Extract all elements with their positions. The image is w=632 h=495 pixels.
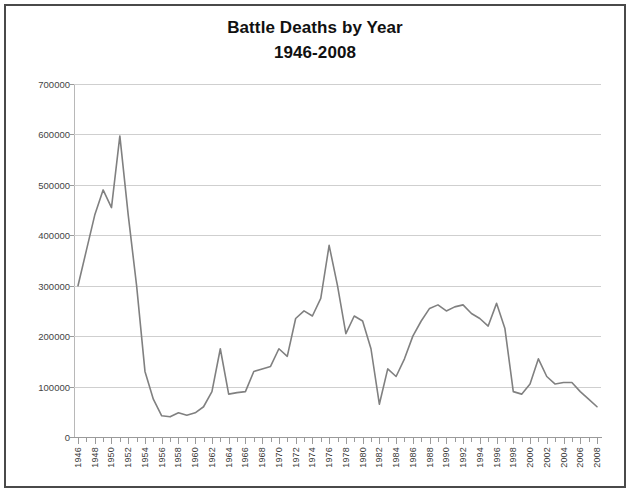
x-axis-tick-label: 1994 xyxy=(475,447,485,468)
x-axis-tick-mark xyxy=(580,438,581,444)
x-axis-tick-mark xyxy=(254,438,255,442)
x-axis-tick-mark xyxy=(547,438,548,444)
x-axis-tick-label: 1946 xyxy=(73,447,83,468)
x-axis-tick-mark xyxy=(212,438,213,444)
x-axis-tick-mark xyxy=(471,438,472,442)
chart-title-line1: Battle Deaths by Year xyxy=(227,18,403,37)
x-axis-tick-label: 1970 xyxy=(274,447,284,468)
y-axis-tick-mark xyxy=(70,336,74,337)
x-axis-tick-mark xyxy=(413,438,414,444)
x-axis-tick-mark xyxy=(438,438,439,442)
x-axis-tick-mark xyxy=(195,438,196,444)
x-axis-tick-mark xyxy=(95,438,96,444)
x-axis-tick-mark xyxy=(279,438,280,444)
x-axis-tick-mark xyxy=(271,438,272,442)
x-axis-tick-label: 1962 xyxy=(207,447,217,468)
x-axis-tick-label: 1960 xyxy=(190,447,200,468)
x-axis-tick-mark xyxy=(513,438,514,444)
x-axis-tick-mark xyxy=(379,438,380,444)
x-axis-tick-mark xyxy=(103,438,104,442)
x-axis-tick-mark xyxy=(589,438,590,442)
x-axis-tick-mark xyxy=(145,438,146,444)
y-axis-tick-label: 500000 xyxy=(10,179,70,190)
x-axis-tick-mark xyxy=(237,438,238,442)
x-axis-tick-mark xyxy=(304,438,305,442)
y-axis-tick-label: 700000 xyxy=(10,79,70,90)
x-axis-tick-mark xyxy=(455,438,456,442)
x-axis-tick-label: 1986 xyxy=(408,447,418,468)
x-axis-tick-mark xyxy=(287,438,288,442)
x-axis-tick-mark xyxy=(220,438,221,442)
chart-title: Battle Deaths by Year 1946-2008 xyxy=(6,16,624,65)
y-axis-tick-label: 400000 xyxy=(10,230,70,241)
x-axis-tick-label: 1984 xyxy=(391,447,401,468)
y-axis-tick-label: 600000 xyxy=(10,129,70,140)
chart-subtitle: 1946-2008 xyxy=(6,41,624,66)
x-axis-tick-label: 1980 xyxy=(358,447,368,468)
x-axis-tick-label: 1968 xyxy=(257,447,267,468)
x-axis-tick-mark xyxy=(86,438,87,442)
y-axis-tick-label: 200000 xyxy=(10,331,70,342)
x-axis-tick-mark xyxy=(538,438,539,442)
y-axis-tick-mark xyxy=(70,286,74,287)
x-axis-tick-label: 1966 xyxy=(240,447,250,468)
x-axis-tick-mark xyxy=(572,438,573,442)
x-axis-tick-label: 1956 xyxy=(157,447,167,468)
x-axis-tick-mark xyxy=(430,438,431,444)
x-axis-tick-label: 2002 xyxy=(542,447,552,468)
x-axis-tick-mark xyxy=(446,438,447,444)
x-axis-tick-mark xyxy=(497,438,498,444)
y-axis-tick-mark xyxy=(70,134,74,135)
x-axis-tick-mark xyxy=(296,438,297,444)
x-axis-tick-label: 1990 xyxy=(441,447,451,468)
x-axis-tick-mark xyxy=(153,438,154,442)
x-axis-tick-label: 1954 xyxy=(140,447,150,468)
x-axis-tick-label: 2004 xyxy=(559,447,569,468)
x-axis-tick-mark xyxy=(421,438,422,442)
x-axis-tick-label: 1964 xyxy=(224,447,234,468)
x-axis-tick-mark xyxy=(229,438,230,444)
x-axis-tick-mark xyxy=(388,438,389,442)
x-axis-tick-mark xyxy=(555,438,556,442)
x-axis-tick-label: 1996 xyxy=(492,447,502,468)
x-axis-tick-mark xyxy=(111,438,112,444)
x-axis-tick-label: 2008 xyxy=(592,447,602,468)
x-axis-tick-label: 1978 xyxy=(341,447,351,468)
x-axis-tick-mark xyxy=(170,438,171,442)
x-axis-tick-mark xyxy=(346,438,347,444)
x-axis-tick-mark xyxy=(463,438,464,444)
y-axis-tick-mark xyxy=(70,387,74,388)
x-axis-tick-label: 2000 xyxy=(525,447,535,468)
x-axis-tick-mark xyxy=(530,438,531,444)
y-axis-tick-mark xyxy=(70,84,74,85)
battle-deaths-line-series xyxy=(74,84,601,437)
x-axis-tick-label: 1948 xyxy=(90,447,100,468)
x-axis-tick-mark xyxy=(363,438,364,444)
chart-frame: Battle Deaths by Year 1946-2008 01000002… xyxy=(4,4,626,488)
x-axis-tick-mark xyxy=(204,438,205,442)
x-axis-tick-mark xyxy=(338,438,339,442)
x-axis-tick-label: 1952 xyxy=(123,447,133,468)
x-axis-tick-mark xyxy=(564,438,565,444)
x-axis-tick-mark xyxy=(245,438,246,444)
x-axis-tick-mark xyxy=(178,438,179,444)
y-axis-labels: 0100000200000300000400000500000600000700… xyxy=(6,84,70,438)
x-axis-tick-label: 1992 xyxy=(458,447,468,468)
x-axis-tick-label: 1972 xyxy=(291,447,301,468)
x-axis-tick-mark xyxy=(354,438,355,442)
x-axis-tick-mark xyxy=(371,438,372,442)
x-axis-tick-label: 1976 xyxy=(324,447,334,468)
y-axis-tick-label: 100000 xyxy=(10,381,70,392)
x-axis-tick-mark xyxy=(396,438,397,444)
x-axis-tick-mark xyxy=(488,438,489,442)
x-axis-tick-mark xyxy=(404,438,405,442)
x-axis-tick-mark xyxy=(262,438,263,444)
y-axis-tick-mark xyxy=(70,235,74,236)
x-axis-tick-label: 1974 xyxy=(307,447,317,468)
x-axis-tick-label: 1950 xyxy=(106,447,116,468)
y-axis-tick-mark xyxy=(70,185,74,186)
x-axis-tick-label: 2006 xyxy=(575,447,585,468)
y-axis-tick-label: 0 xyxy=(10,432,70,443)
x-axis-tick-mark xyxy=(128,438,129,444)
x-axis-tick-mark xyxy=(505,438,506,442)
